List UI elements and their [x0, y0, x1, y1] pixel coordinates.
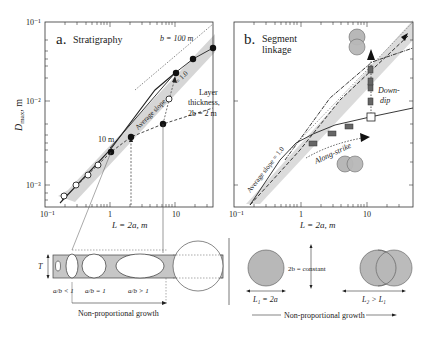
arrow-right-icon: [360, 133, 370, 142]
y-axis-label: Dmax, m: [13, 99, 26, 132]
x-tick-label: 1: [108, 210, 112, 219]
bottom-right-diagram: 2b = constant L₁ = 2a L₂ > L₁ Non-propor…: [246, 244, 412, 320]
y-tick-label: 10⁻²: [26, 97, 41, 106]
label-constant: 2b = constant: [288, 265, 326, 273]
x-axis-label-b: L = 2a, m: [299, 220, 336, 230]
label-ab-lt: a/b < 1: [53, 287, 74, 295]
label-ab-eq: a/b = 1: [85, 287, 106, 295]
label-growth-right: Non-proportional growth: [284, 311, 365, 320]
panel-a: 10⁻¹ 10⁻² 10⁻³ 10⁻¹ 1 10 L = 2a, m Dmax,…: [13, 18, 220, 253]
bottom-left-diagram: T a/b < 1 a/b = 1 a/b > 1 Non-proportion…: [38, 152, 223, 318]
y-tick-label: 10⁻³: [26, 181, 41, 190]
figure: 10⁻¹ 10⁻² 10⁻³ 10⁻¹ 1 10 L = 2a, m Dmax,…: [0, 0, 430, 338]
panel-a-label: a.: [56, 31, 66, 47]
circles-horizontal-icon: [337, 156, 363, 172]
label-growth-left: Non-proportional growth: [78, 309, 159, 318]
circle-L2-b: [376, 250, 412, 286]
annotation-layer: Layer: [199, 88, 218, 97]
ellipse-small: [56, 261, 61, 271]
panel-b: b. Segment linkage Down- dip Along-strik…: [229, 20, 413, 230]
panel-b-title: Segment: [262, 33, 297, 44]
arrow-up-icon: [367, 49, 375, 60]
y-ticks-a: [45, 22, 207, 207]
label-L2: L₂ > L₁: [361, 295, 386, 304]
label-L1: L₁ = 2a: [252, 295, 278, 304]
annotation-10m: 10 m: [98, 135, 115, 144]
label-T: T: [38, 262, 43, 271]
ellipse-ab-gt: [116, 254, 164, 278]
x-axis-label-a: L = 2a, m: [111, 220, 148, 230]
y-tick-label: 10⁻¹: [26, 18, 41, 27]
panel-b-title-2: linkage: [262, 44, 292, 55]
panel-b-label: b.: [244, 31, 255, 47]
annotation-thickness: thickness,: [188, 98, 220, 107]
x-tick-label: 10: [363, 210, 371, 219]
ellipse-ab-lt: [66, 254, 78, 278]
ellipse-ab-eq: [82, 254, 106, 278]
annotation-down: Down-: [377, 86, 400, 95]
x-tick-label: 10: [172, 210, 180, 219]
annotation-2b: 2b = 2 m: [188, 109, 218, 118]
circle-L1: [248, 250, 284, 286]
annotation-b100: b = 100 m: [160, 34, 193, 43]
label-ab-gt: a/b > 1: [128, 287, 149, 295]
x-tick-label: 10⁻¹: [229, 210, 244, 219]
open-square-marker: [367, 113, 375, 121]
annotation-dip: dip: [380, 96, 390, 105]
circles-vertical-icon: [349, 29, 365, 55]
svg-text:Dmax, m: Dmax, m: [13, 99, 26, 132]
x-tick-label: 1: [299, 210, 303, 219]
panel-a-title: Stratigraphy: [73, 34, 122, 45]
x-tick-label: 10⁻¹: [40, 210, 55, 219]
circle-large: [173, 241, 223, 291]
